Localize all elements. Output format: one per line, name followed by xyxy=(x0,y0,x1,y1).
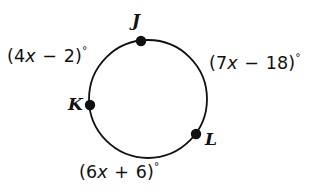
arc-left-variable: x xyxy=(25,46,35,66)
circle-outline xyxy=(89,40,207,158)
arc-bottom-variable: x xyxy=(97,162,107,182)
circle-arc-figure: J K L (4x − 2)° (7x − 18)° (6x + 6)° xyxy=(0,0,318,194)
point-dot-k xyxy=(85,100,95,110)
arc-bottom-coefficient: 6 xyxy=(86,162,97,182)
arc-bottom-constant: 6 xyxy=(136,162,147,182)
arc-right-operator: − xyxy=(243,53,260,73)
arc-right-coefficient: 7 xyxy=(216,53,227,73)
arc-measure-label-left: (4x − 2)° xyxy=(7,48,87,66)
arc-bottom-open-paren: ( xyxy=(79,162,86,182)
arc-left-close-paren: ) xyxy=(75,46,82,66)
degree-symbol-icon: ° xyxy=(295,51,300,63)
arc-bottom-operator: + xyxy=(113,162,130,182)
point-dot-j xyxy=(136,36,146,46)
point-label-j: J xyxy=(132,12,140,29)
arc-left-coefficient: 4 xyxy=(14,46,25,66)
arc-measure-label-right: (7x − 18)° xyxy=(209,55,301,73)
point-dot-l xyxy=(191,129,201,139)
arc-left-open-paren: ( xyxy=(7,46,14,66)
point-label-k: K xyxy=(68,96,83,113)
arc-measure-label-bottom: (6x + 6)° xyxy=(79,164,159,182)
arc-left-constant: 2 xyxy=(64,46,75,66)
arc-left-operator: − xyxy=(41,46,58,66)
arc-right-variable: x xyxy=(227,53,237,73)
point-label-l: L xyxy=(205,131,217,148)
arc-bottom-close-paren: ) xyxy=(147,162,154,182)
arc-right-open-paren: ( xyxy=(209,53,216,73)
arc-right-constant: 18 xyxy=(266,53,288,73)
degree-symbol-icon: ° xyxy=(154,160,159,172)
degree-symbol-icon: ° xyxy=(82,44,87,56)
